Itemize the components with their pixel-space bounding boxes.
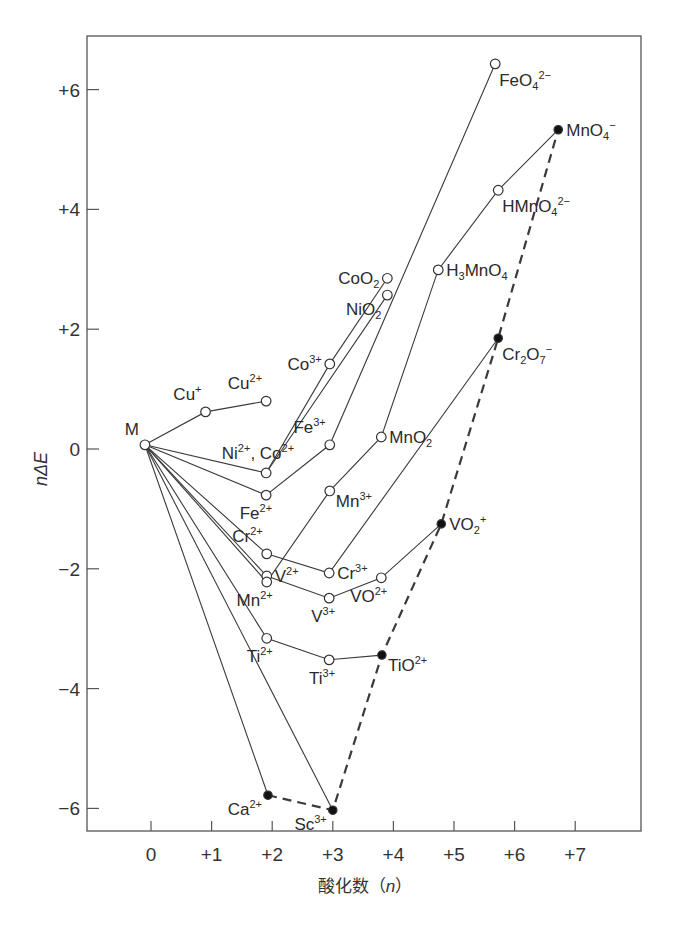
point-label: Mn2+​ (237, 589, 273, 610)
y-tick-label: −2 (58, 559, 80, 580)
point-mn3- (325, 486, 335, 496)
point-label: Fe3+​ (293, 416, 325, 437)
point-mn2- (262, 577, 272, 587)
point-vo2- (376, 573, 386, 583)
point-label: Cu2+​ (228, 372, 262, 393)
point-label: Cr3+​ (337, 562, 368, 583)
series-line-max-oxidation (268, 130, 558, 811)
series-line-sc (145, 445, 333, 810)
point-label: Ti2+​ (247, 645, 273, 666)
point-ca2- (264, 791, 272, 799)
point-cr2- (262, 549, 272, 559)
series-line-fe (145, 64, 495, 495)
point-m (140, 440, 150, 450)
point-cr2o7 (494, 334, 502, 342)
point-label: HMnO4​2−​ (502, 195, 570, 218)
point-label: Mn3+​ (336, 490, 372, 511)
point-ti2- (262, 633, 272, 643)
point-label: Cr2​O7​−​ (502, 343, 552, 366)
y-tick-label: +4 (58, 199, 80, 220)
y-tick-label: +6 (58, 80, 80, 101)
y-tick-label: +2 (58, 319, 80, 340)
point-feo42- (490, 59, 500, 69)
y-tick-label: −6 (58, 798, 80, 819)
point-sc3- (329, 806, 337, 814)
point-label: CoO2​ (338, 269, 379, 290)
point-cu2- (261, 396, 271, 406)
point-label: V3+​ (311, 605, 335, 626)
point-cu- (201, 407, 211, 417)
point-v3- (324, 593, 334, 603)
x-tick-label: +3 (322, 844, 344, 865)
point-mno2 (376, 432, 386, 442)
point-nio2 (383, 290, 393, 300)
point-ti3- (324, 655, 334, 665)
x-tick-label: +2 (261, 844, 283, 865)
point-label: Fe2+​ (240, 502, 272, 523)
point-hmno42- (493, 185, 503, 195)
point-coo2 (383, 273, 393, 283)
point-label: H3​MnO4​ (446, 261, 507, 282)
point-fe2- (261, 490, 271, 500)
point-label: Cr2+​ (232, 525, 263, 546)
x-tick-label: +7 (564, 844, 586, 865)
x-tick-label: +1 (201, 844, 223, 865)
point-label: M (125, 420, 139, 439)
point-label: FeO4​2−​ (499, 69, 551, 92)
y-axis-title: nΔE (31, 451, 51, 486)
point-label: Ti3+​ (309, 667, 335, 688)
point-vo2p (437, 520, 445, 528)
point-fe3- (325, 440, 335, 450)
x-axis-title: 酸化数（n） (318, 876, 412, 896)
y-tick-label: 0 (69, 439, 80, 460)
point-tio2- (378, 651, 386, 659)
point-ni2- (261, 468, 271, 478)
point-label: Cu+​ (173, 383, 201, 404)
point-label: Ca2+​ (228, 798, 262, 819)
point-cr3- (324, 568, 334, 578)
point-h3mno4 (433, 265, 443, 275)
x-tick-label: 0 (146, 844, 157, 865)
point-label: MnO4​−​ (566, 119, 615, 142)
series-line-mn (145, 130, 558, 582)
point-co3- (325, 359, 335, 369)
point-mno4- (554, 126, 562, 134)
point-label: NiO2​ (346, 300, 381, 321)
point-label: Ni2+​, Co2+​ (222, 442, 294, 463)
point-label: VO2+​ (350, 585, 387, 606)
point-label: VO2​+​ (449, 513, 486, 536)
x-tick-label: +6 (504, 844, 526, 865)
point-label: TiO2+​ (388, 654, 427, 675)
point-label: MnO2​ (389, 428, 432, 449)
frost-diagram: 0+1+2+3+4+5+6+7+6+4+20−2−4−6 MCu+​Cu2+​N… (0, 0, 674, 931)
x-tick-label: +5 (443, 844, 465, 865)
point-label: Co3+​ (287, 353, 321, 374)
y-tick-label: −4 (58, 679, 80, 700)
series-line-ca (145, 445, 268, 795)
x-tick-label: +4 (383, 844, 405, 865)
